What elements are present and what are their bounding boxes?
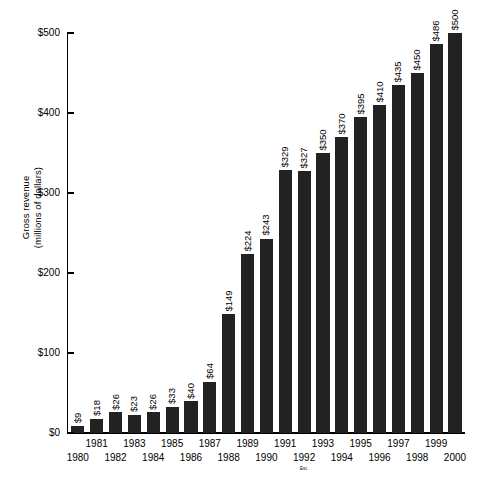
y-axis-tick-label: $0 — [20, 428, 60, 438]
bar[interactable] — [448, 33, 461, 433]
y-axis-tick-mark — [67, 272, 74, 273]
bar-group: $435 — [392, 33, 405, 433]
y-axis-tick-label: $200 — [20, 268, 60, 278]
x-axis-tick-label: 1983 — [123, 438, 145, 449]
bar-group: $327 — [298, 33, 311, 433]
bar[interactable] — [373, 105, 386, 433]
bar-value-label: $26 — [111, 391, 121, 413]
x-axis-tick-labels: 1980198119821983198419851986198719881989… — [68, 433, 464, 481]
bar[interactable] — [128, 415, 141, 433]
bar-group: $26 — [147, 33, 160, 433]
bar-value-label: $18 — [92, 397, 102, 419]
bar[interactable] — [147, 412, 160, 433]
bar-group: $370 — [335, 33, 348, 433]
bar-group: $224 — [241, 33, 254, 433]
bar-group: $350 — [316, 33, 329, 433]
bar-group: $18 — [90, 33, 103, 433]
x-axis-tick-label: 1985 — [161, 438, 183, 449]
bar-value-label: $23 — [129, 393, 139, 415]
bar-value-label: $486 — [431, 20, 441, 42]
bar-value-label: $149 — [224, 289, 234, 311]
y-axis-tick-mark — [67, 432, 74, 433]
bar[interactable] — [222, 314, 235, 433]
x-axis-tick-label: 1992 — [293, 452, 315, 463]
bar[interactable] — [354, 117, 367, 433]
x-axis-tick-label: 1980 — [67, 452, 89, 463]
bar-value-label: $327 — [299, 147, 309, 169]
bar-value-label: $40 — [186, 380, 196, 402]
bar-value-label: $243 — [261, 214, 271, 236]
x-axis-tick-label: 1991 — [274, 438, 296, 449]
x-axis-tick-label: 1981 — [86, 438, 108, 449]
bar-value-label: $26 — [148, 391, 158, 413]
bar-value-label: $9 — [73, 407, 83, 429]
bar-group: $149 — [222, 33, 235, 433]
x-axis-tick-label: 1998 — [406, 452, 428, 463]
y-axis-tick-labels: $0$100$200$300$400$500 — [15, 0, 60, 481]
bar-value-label: $329 — [280, 145, 290, 167]
x-axis-tick-label: 2000 — [444, 452, 466, 463]
x-axis-tick-label: 1982 — [104, 452, 126, 463]
bar-value-label: $350 — [318, 129, 328, 151]
bar[interactable] — [203, 382, 216, 433]
bar-group: $450 — [411, 33, 424, 433]
bar[interactable] — [166, 407, 179, 433]
x-axis-tick-label: 1986 — [180, 452, 202, 463]
bar-group: $500 — [448, 33, 461, 433]
bar-value-label: $370 — [337, 113, 347, 135]
x-axis-tick-label: 1999 — [425, 438, 447, 449]
x-axis-tick-label: 1993 — [312, 438, 334, 449]
y-axis-tick-label: $100 — [20, 348, 60, 358]
x-axis-tick-label: 1994 — [331, 452, 353, 463]
bar-group: $410 — [373, 33, 386, 433]
x-axis-tick-label: 1996 — [368, 452, 390, 463]
bar-value-label: $410 — [375, 81, 385, 103]
bar-group: $9 — [71, 33, 84, 433]
y-axis-tick-label: $500 — [20, 28, 60, 38]
bar-group: $40 — [184, 33, 197, 433]
bar[interactable] — [298, 171, 311, 433]
x-axis-tick-label: 1984 — [142, 452, 164, 463]
x-axis-tick-label: 1987 — [199, 438, 221, 449]
bar-value-label: $224 — [243, 229, 253, 251]
bar-group: $23 — [128, 33, 141, 433]
bar[interactable] — [279, 170, 292, 433]
y-axis-tick-mark — [67, 112, 74, 113]
bar[interactable] — [430, 44, 443, 433]
bar[interactable] — [184, 401, 197, 433]
bar[interactable] — [316, 153, 329, 433]
bar-value-label: $450 — [412, 49, 422, 71]
x-axis-tick-label: 1997 — [387, 438, 409, 449]
bar[interactable] — [392, 85, 405, 433]
bar[interactable] — [335, 137, 348, 433]
bar-value-label: $395 — [356, 93, 366, 115]
x-axis-tick-label: 1990 — [255, 452, 277, 463]
bar[interactable] — [109, 412, 122, 433]
bar-group: $486 — [430, 33, 443, 433]
bar-group: $33 — [166, 33, 179, 433]
y-axis-tick-label: $300 — [20, 188, 60, 198]
y-axis-tick-mark — [67, 352, 74, 353]
bar-chart: Gross revenue (millions of dollars) $0$1… — [0, 0, 480, 481]
bar[interactable] — [260, 239, 273, 433]
bar-group: $329 — [279, 33, 292, 433]
bar[interactable] — [411, 73, 424, 433]
bar-value-label: $33 — [167, 385, 177, 407]
plot-area: $9$18$26$23$26$33$40$64$149$224$243$329$… — [68, 33, 464, 433]
y-axis-tick-mark — [67, 192, 74, 193]
x-axis-tick-label: 1988 — [218, 452, 240, 463]
bar-group: $26 — [109, 33, 122, 433]
bar-value-label: $64 — [205, 360, 215, 382]
bar-group: $395 — [354, 33, 367, 433]
x-axis-tick-label: 1989 — [236, 438, 258, 449]
bar-value-label: $435 — [393, 61, 403, 83]
bar[interactable] — [241, 254, 254, 433]
x-axis-tick-label: 1995 — [350, 438, 372, 449]
bar-group: $243 — [260, 33, 273, 433]
y-axis-tick-mark — [67, 32, 74, 33]
bar[interactable] — [90, 419, 103, 433]
bar-value-label: $500 — [450, 9, 460, 31]
bar-group: $64 — [203, 33, 216, 433]
estimate-annotation: Est. — [300, 466, 308, 471]
y-axis-tick-label: $400 — [20, 108, 60, 118]
